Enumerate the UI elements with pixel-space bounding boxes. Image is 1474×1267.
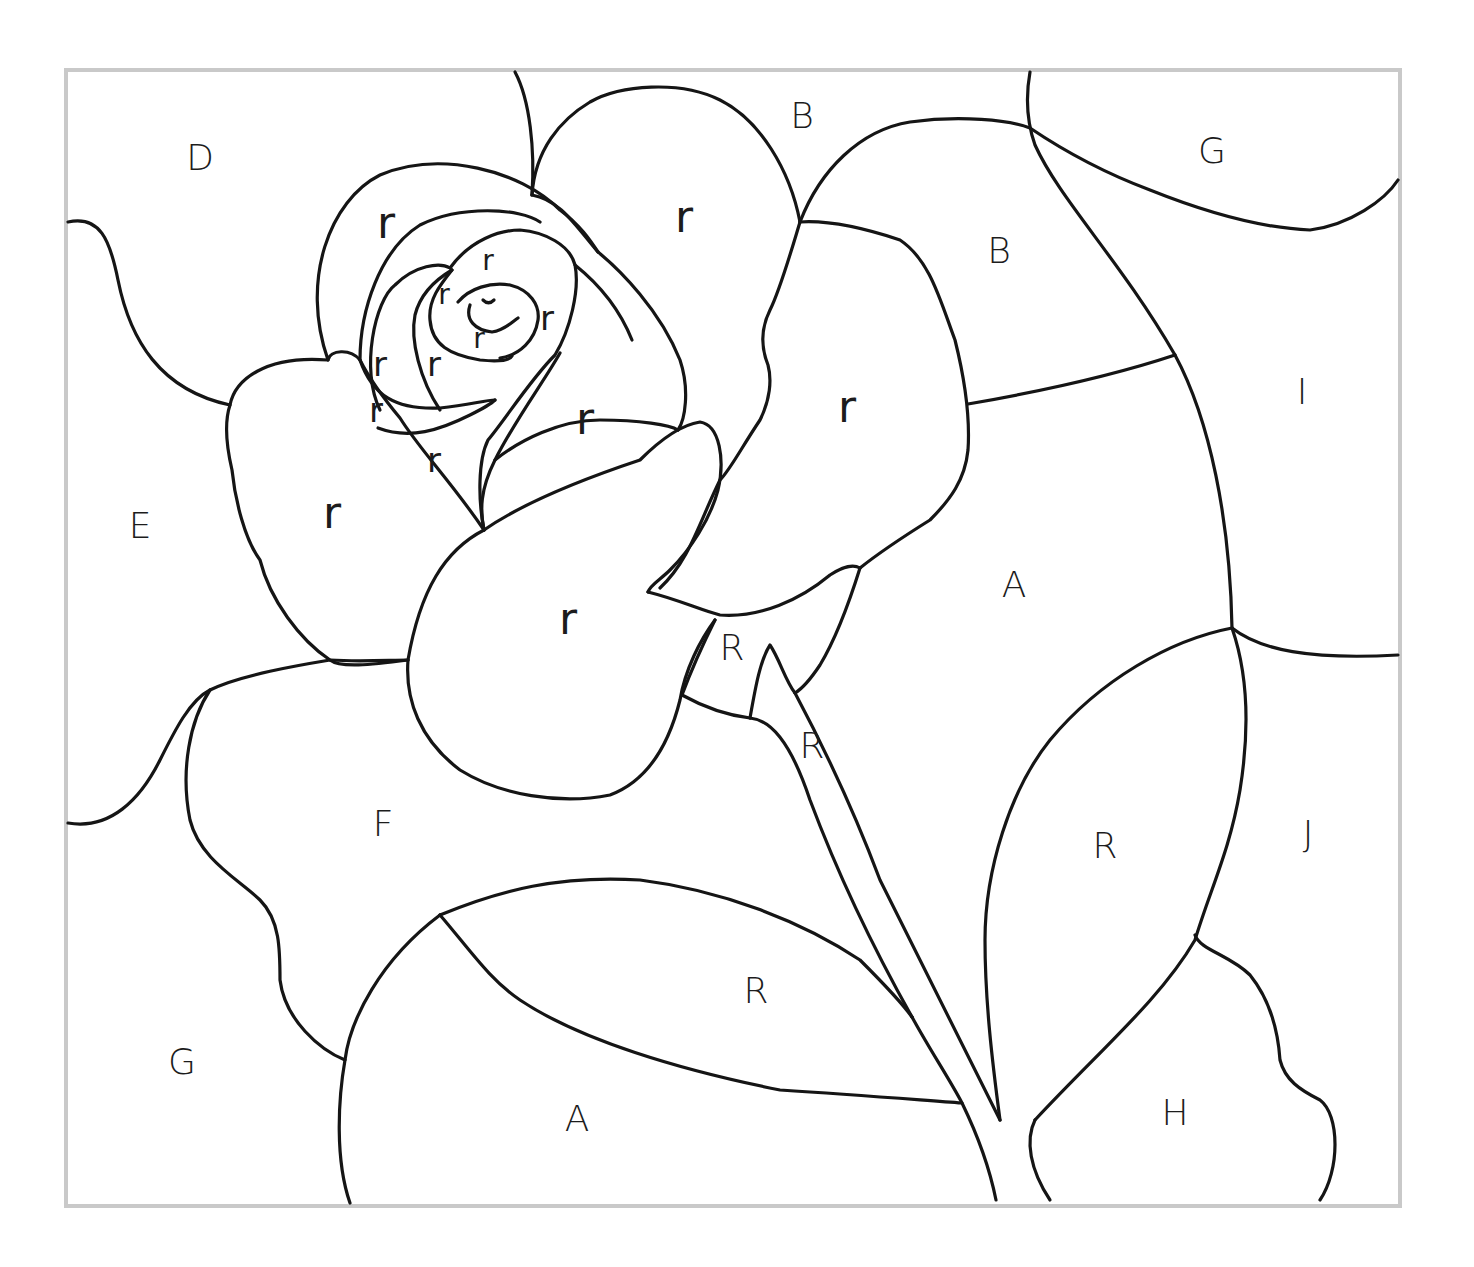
label-G-top: G [1198, 130, 1226, 171]
label-B-right: B [987, 230, 1011, 271]
label-r-petal: r [675, 191, 694, 242]
label-R-sepal-stem: R [799, 725, 824, 766]
label-R-leaf-bottom: R [743, 970, 768, 1011]
label-r-petal: r [838, 381, 857, 432]
label-G-bottom: G [168, 1041, 196, 1082]
label-r-petal: r [473, 322, 485, 355]
label-R-sepal-left: R [719, 627, 744, 668]
label-R-leaf-right: R [1092, 825, 1117, 866]
region-labels: D B G B I E A R R F J R R G A H [129, 95, 1314, 1139]
label-F: F [373, 803, 394, 844]
label-r-petal: r [482, 244, 494, 277]
label-r-petal: r [377, 197, 396, 248]
label-A-mid: A [1002, 564, 1027, 605]
label-B-top: B [790, 95, 814, 136]
label-r-petal: r [540, 298, 554, 338]
label-I: I [1297, 371, 1308, 412]
coloring-page: D B G B I E A R R F J R R G A H r r r r … [0, 0, 1474, 1267]
label-A-bottom: A [565, 1098, 590, 1139]
label-r-petal: r [427, 440, 441, 480]
label-r-petal: r [323, 487, 342, 538]
label-r-petal: r [427, 344, 441, 384]
label-E: E [129, 505, 152, 546]
label-r-petal: r [576, 393, 595, 444]
label-D: D [186, 137, 214, 178]
label-J: J [1303, 813, 1314, 854]
label-H: H [1161, 1092, 1188, 1133]
label-r-petal: r [438, 278, 450, 311]
label-r-petal: r [373, 344, 387, 384]
label-r-petal: r [369, 390, 383, 430]
label-r-petal-front: r [559, 593, 578, 644]
